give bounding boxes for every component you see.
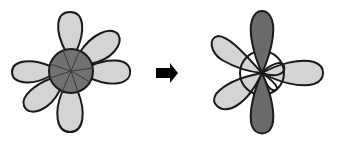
right-arrow-icon [156,63,178,83]
petal-left [12,61,50,82]
petal-top [58,12,82,52]
petal-right [90,60,130,83]
right-flower [212,11,323,134]
petal-bottom [57,92,82,132]
diagram-canvas [0,0,337,142]
left-flower [12,12,130,132]
